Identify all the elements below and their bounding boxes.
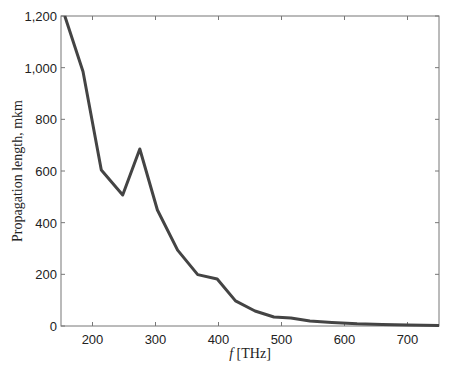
y-axis-label: Propagation length, mkm: [10, 100, 25, 242]
x-tick-label: 500: [271, 332, 293, 347]
x-tick-label: 200: [82, 332, 104, 347]
x-tick-label: 300: [145, 332, 167, 347]
plot-frame: [61, 16, 439, 326]
y-tick-label: 0: [50, 319, 57, 334]
x-tick-label: 600: [334, 332, 356, 347]
x-axis-label: f [THz]: [229, 346, 271, 361]
y-tick-label: 800: [35, 112, 57, 127]
data-line: [65, 16, 439, 326]
y-tick-label: 1,200: [24, 9, 57, 24]
x-tick-label: 700: [397, 332, 419, 347]
y-tick-label: 200: [35, 267, 57, 282]
chart: 20030040050060070002004006008001,0001,20…: [0, 0, 449, 369]
y-tick-label: 400: [35, 216, 57, 231]
x-tick-label: 400: [208, 332, 230, 347]
y-tick-label: 600: [35, 164, 57, 179]
y-tick-label: 1,000: [24, 61, 57, 76]
